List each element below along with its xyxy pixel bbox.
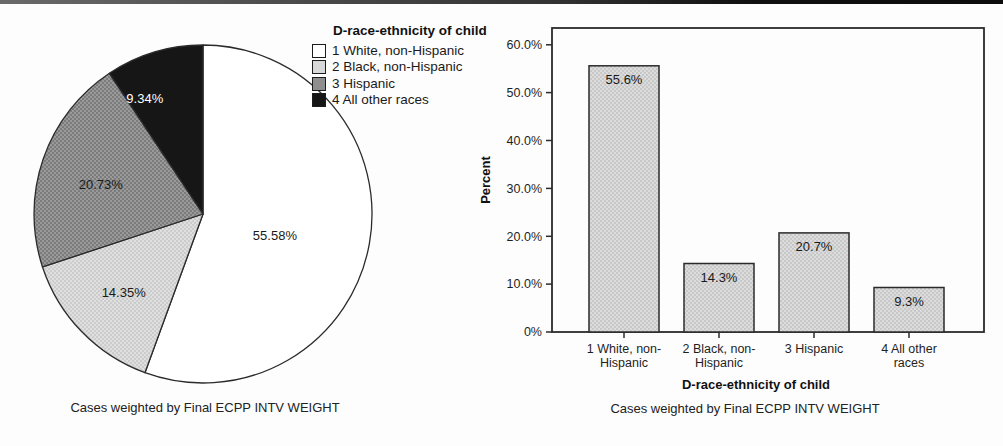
bar-caption: Cases weighted by Final ECPP INTV WEIGHT: [529, 401, 961, 416]
pie-slice-label-1: 55.58%: [253, 228, 298, 243]
legend-swatch-black: [312, 93, 326, 107]
legend-label: 2 Black, non-Hispanic: [332, 59, 463, 76]
legend-item-hispanic: 3 Hispanic: [312, 76, 487, 93]
pie-slice-label-3: 20.73%: [79, 177, 124, 192]
pie-legend-title: D-race-ethnicity of child: [312, 23, 487, 40]
x-tick-label-4: 4 All other: [881, 342, 937, 356]
x-tick-label-2: 2 Black, non-: [683, 342, 756, 356]
legend-swatch-white: [312, 44, 326, 58]
legend-item-black: 2 Black, non-Hispanic: [312, 59, 487, 76]
legend-item-white: 1 White, non-Hispanic: [312, 43, 487, 60]
y-tick-label: 0%: [524, 325, 542, 339]
pie-slice-label-2: 14.35%: [102, 285, 147, 300]
bar-value-label-1: 55.6%: [606, 72, 643, 87]
y-tick-label: 40.0%: [507, 134, 542, 148]
bar-1: [589, 66, 659, 332]
legend-label: 1 White, non-Hispanic: [332, 43, 464, 60]
y-tick-label: 50.0%: [507, 86, 542, 100]
pie-slice-label-4: 9.34%: [126, 91, 163, 106]
legend-item-other: 4 All other races: [312, 92, 487, 109]
x-tick-label-1: Hispanic: [600, 356, 648, 370]
bar-value-label-3: 20.7%: [796, 239, 833, 254]
x-tick-label-3: 3 Hispanic: [785, 342, 843, 356]
bar-y-axis-title: Percent: [478, 156, 493, 204]
y-tick-label: 60.0%: [507, 38, 542, 52]
pie-caption: Cases weighted by Final ECPP INTV WEIGHT: [20, 400, 390, 415]
y-tick-label: 30.0%: [507, 182, 542, 196]
x-tick-label-4: races: [894, 356, 925, 370]
y-tick-label: 20.0%: [507, 230, 542, 244]
x-tick-label-1: 1 White, non-: [587, 342, 661, 356]
bar-value-label-2: 14.3%: [701, 270, 738, 285]
pie-legend: D-race-ethnicity of child 1 White, non-H…: [312, 23, 487, 109]
bar-value-label-4: 9.3%: [894, 294, 924, 309]
scanned-page: 55.58%14.35%20.73%9.34%0%10.0%20.0%30.0%…: [0, 0, 1003, 446]
legend-swatch-lightgray: [312, 60, 326, 74]
y-tick-label: 10.0%: [507, 277, 542, 291]
bar-x-axis-title: D-race-ethnicity of child: [540, 377, 972, 392]
legend-label: 4 All other races: [332, 92, 429, 109]
x-tick-label-2: Hispanic: [695, 356, 743, 370]
legend-label: 3 Hispanic: [332, 76, 395, 93]
legend-swatch-gray: [312, 77, 326, 91]
